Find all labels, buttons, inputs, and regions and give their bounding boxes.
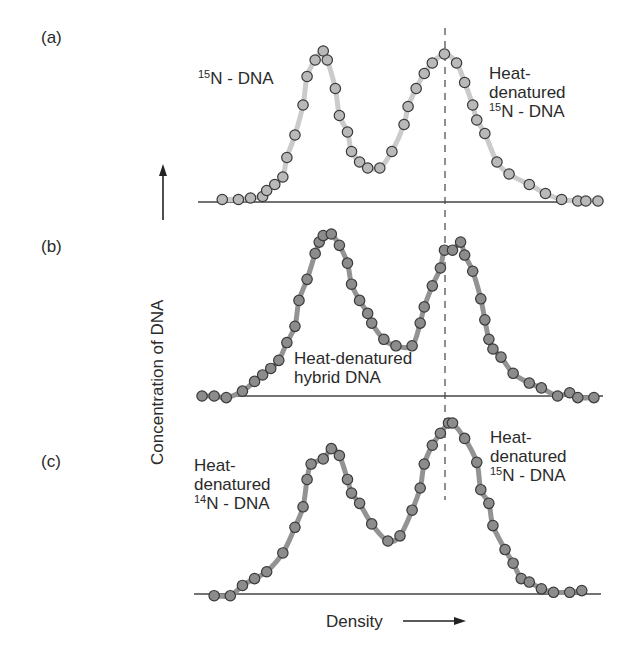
- data-point: [387, 146, 397, 156]
- annotation-c-heat-denatured-14n: Heat- denatured 14N - DNA: [194, 456, 271, 513]
- data-point: [298, 100, 308, 110]
- data-point: [403, 101, 413, 111]
- data-point: [548, 587, 558, 597]
- data-point: [492, 157, 502, 167]
- data-point: [447, 245, 457, 255]
- data-point: [362, 308, 372, 318]
- data-point: [342, 127, 352, 137]
- annotation-b-hybrid: Heat-denatured hybrid DNA: [294, 349, 412, 387]
- y-axis-arrow-head-icon: [159, 164, 167, 176]
- annotation-c-heat-denatured-15n: Heat- denatured 15N - DNA: [490, 428, 567, 485]
- data-point: [472, 115, 482, 125]
- data-point: [556, 194, 566, 204]
- isotope-superscript: 15: [198, 68, 210, 80]
- data-point: [524, 179, 534, 189]
- data-point: [367, 519, 377, 529]
- annotation-text: N - DNA: [210, 69, 273, 88]
- data-point: [233, 194, 243, 204]
- data-point: [298, 502, 308, 512]
- data-point: [310, 248, 320, 258]
- x-axis-label: Density: [326, 612, 383, 632]
- data-point: [342, 474, 352, 484]
- data-point: [278, 172, 288, 182]
- data-point: [395, 531, 405, 541]
- data-point: [237, 386, 247, 396]
- data-point: [326, 229, 336, 239]
- data-point: [302, 474, 312, 484]
- data-point: [407, 505, 417, 515]
- data-point: [310, 55, 320, 65]
- data-point: [459, 77, 469, 87]
- panel-label-c: (c): [41, 452, 61, 471]
- data-point: [334, 240, 344, 250]
- annotation-a-heat-denatured-15n: Heat- denatured 15N - DNA: [489, 64, 566, 121]
- annotation-a-15n-dna: 15N - DNA: [198, 69, 274, 88]
- data-point: [447, 418, 457, 428]
- data-point: [480, 128, 490, 138]
- panel-label-a: (a): [41, 28, 62, 47]
- data-point: [419, 459, 429, 469]
- data-point: [476, 484, 486, 494]
- data-point: [468, 100, 478, 110]
- data-point: [564, 587, 574, 597]
- data-point: [334, 450, 344, 460]
- data-point: [472, 457, 482, 467]
- data-point: [536, 584, 546, 594]
- data-point: [306, 459, 316, 469]
- data-point: [290, 130, 300, 140]
- data-point: [282, 337, 292, 347]
- data-point: [427, 281, 437, 291]
- annotation-text: N - DNA: [502, 466, 565, 485]
- data-point: [508, 368, 518, 378]
- data-point: [415, 318, 425, 328]
- data-point: [488, 520, 498, 530]
- data-point: [589, 392, 599, 402]
- data-point: [266, 363, 276, 373]
- data-point: [237, 580, 247, 590]
- data-point: [427, 58, 437, 68]
- data-point: [209, 391, 219, 401]
- data-point: [221, 392, 231, 402]
- data-point: [451, 58, 461, 68]
- data-point: [383, 536, 393, 546]
- data-point: [261, 567, 271, 577]
- data-point: [294, 295, 304, 305]
- data-point: [419, 302, 429, 312]
- data-point: [249, 573, 259, 583]
- data-point: [484, 498, 494, 508]
- data-point: [367, 318, 377, 328]
- data-point: [282, 152, 292, 162]
- x-axis-arrow-head-icon: [454, 617, 466, 625]
- isotope-superscript: 15: [489, 101, 501, 113]
- data-point: [500, 544, 510, 554]
- data-point: [270, 179, 280, 189]
- data-point: [504, 169, 514, 179]
- data-point: [536, 383, 546, 393]
- annotation-line: Heat-denatured: [294, 349, 412, 368]
- data-point: [209, 591, 219, 601]
- isotope-superscript: 15: [490, 465, 502, 477]
- data-point: [524, 378, 534, 388]
- annotation-line: denatured: [489, 83, 566, 102]
- data-point: [399, 119, 409, 129]
- data-point: [245, 193, 255, 203]
- data-point: [278, 548, 288, 558]
- data-point: [439, 49, 449, 59]
- annotation-line: Heat-: [490, 428, 567, 447]
- data-point: [419, 68, 429, 78]
- data-point: [581, 196, 591, 206]
- data-point: [552, 391, 562, 401]
- data-point: [375, 163, 385, 173]
- data-point: [480, 315, 490, 325]
- data-point: [197, 391, 207, 401]
- data-point: [302, 71, 312, 81]
- annotation-line: denatured: [194, 475, 271, 494]
- data-point: [484, 334, 494, 344]
- data-point: [322, 55, 332, 65]
- data-point: [346, 146, 356, 156]
- data-point: [318, 454, 328, 464]
- data-point: [217, 194, 227, 204]
- data-point: [354, 295, 364, 305]
- data-point: [346, 279, 356, 289]
- data-point: [573, 392, 583, 402]
